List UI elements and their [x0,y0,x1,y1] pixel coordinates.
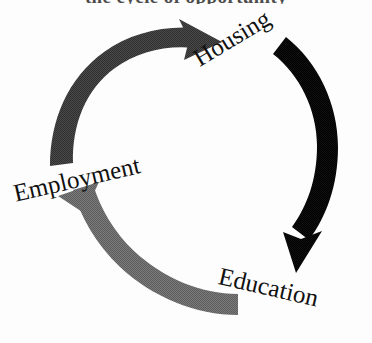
arrow-employment-to-housing [50,19,222,166]
cycle-diagram: the cycle of opportunity [0,0,372,343]
arrow-education-to-employment [58,182,238,315]
arrow-housing-to-education [273,37,338,273]
